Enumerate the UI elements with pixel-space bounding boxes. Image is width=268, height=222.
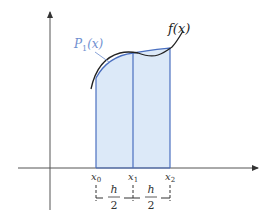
step-numerator-1: h [110, 183, 117, 196]
node-label-x1: x1 [128, 171, 138, 184]
step-denominator-2: 2 [148, 199, 155, 212]
function-label: f(x) [167, 21, 190, 36]
node-label-x0: x0 [91, 171, 101, 184]
polynomial-label: P1(x) [73, 37, 104, 53]
simpson-diagram: f(x) P1(x) x0 x1 x2 h 2 h 2 [0, 0, 268, 222]
node-label-x2: x2 [165, 171, 175, 184]
step-denominator-1: 2 [111, 199, 118, 212]
step-numerator-2: h [147, 183, 154, 196]
poly-label-leader [95, 52, 109, 62]
